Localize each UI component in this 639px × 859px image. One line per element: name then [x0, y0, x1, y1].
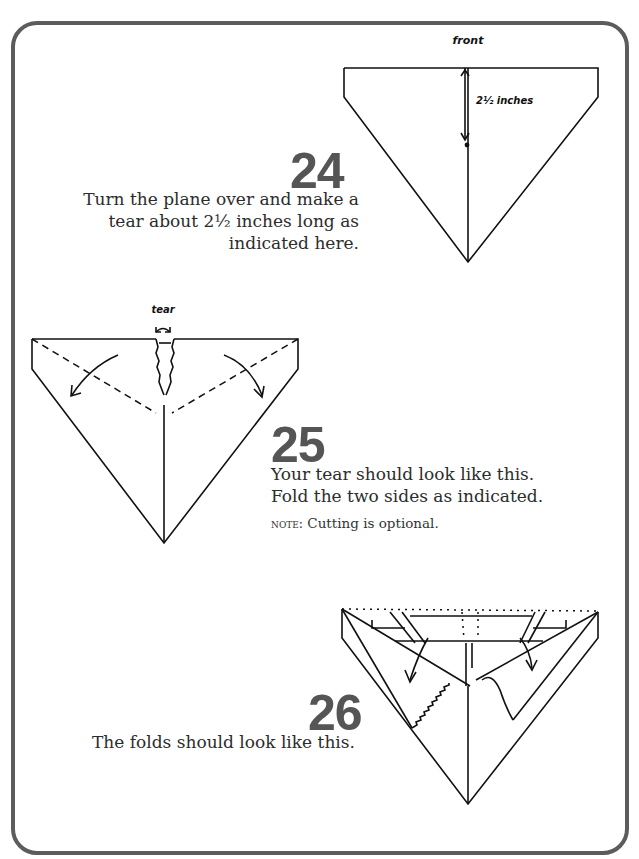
front-label: front — [453, 34, 485, 47]
step-25-note: note: Cutting is optional. — [271, 515, 439, 531]
step-24-diagram: front 2½ inches — [330, 30, 610, 270]
tear-label: tear — [151, 304, 175, 315]
step-25-diagram: tear — [20, 295, 310, 550]
step-25-text: Your tear should look like this. Fold th… — [271, 463, 543, 507]
step-24-line-3: indicated here. — [59, 232, 359, 254]
step-26-line-1: The folds should look like this. — [92, 731, 355, 753]
step-26-diagram — [330, 590, 620, 840]
step-26-text: The folds should look like this. — [92, 731, 355, 753]
step-25-line-2: Fold the two sides as indicated. — [271, 485, 543, 507]
step-24-line-1: Turn the plane over and make a — [59, 188, 359, 210]
note-prefix: note: — [271, 516, 303, 531]
note-text: Cutting is optional. — [303, 515, 439, 531]
step-24-text: Turn the plane over and make a tear abou… — [59, 188, 359, 254]
measure-label: 2½ inches — [476, 95, 533, 106]
step-24-line-2: tear about 2½ inches long as — [59, 210, 359, 232]
step-25-line-1: Your tear should look like this. — [271, 463, 543, 485]
